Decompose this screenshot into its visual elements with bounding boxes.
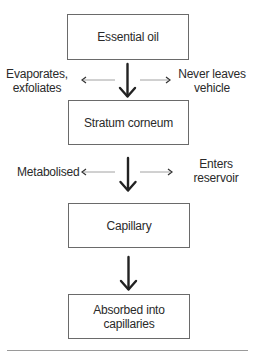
side-arrowhead-right-1-icon (166, 77, 170, 83)
node-label: Essential oil (97, 30, 158, 44)
side-label-line: vehicle (176, 81, 248, 95)
side-label-line: Evaporates, (6, 67, 68, 81)
main-arrow-1-icon (120, 64, 135, 97)
side-label-line: Metabolised (17, 165, 79, 179)
side-label-evaporates: Evaporates, exfoliates (6, 67, 68, 95)
side-label-line: Never leaves (176, 67, 248, 81)
main-arrow-3-icon (121, 257, 136, 290)
node-label: Capillary (107, 219, 152, 233)
side-label-line: reservoir (188, 171, 244, 185)
side-arrowhead-right-2-icon (168, 169, 172, 175)
side-arrowhead-left-1-icon (82, 77, 86, 83)
side-label-never-leaves: Never leaves vehicle (176, 67, 248, 95)
side-label-line: Enters (188, 157, 244, 171)
side-label-line: exfoliates (6, 81, 68, 95)
node-capillary: Capillary (68, 203, 190, 248)
side-arrowhead-left-2-icon (82, 169, 86, 175)
node-label: Stratum corneum (84, 116, 173, 130)
node-absorbed: Absorbed into capillaries (68, 294, 190, 339)
node-stratum-corneum: Stratum corneum (68, 100, 189, 145)
side-label-metabolised: Metabolised (17, 165, 79, 179)
main-arrow-2-icon (121, 158, 136, 191)
bottom-divider (7, 350, 248, 351)
node-label: Absorbed into capillaries (84, 303, 174, 331)
side-label-enters-reservoir: Enters reservoir (188, 157, 244, 185)
node-essential-oil: Essential oil (67, 14, 189, 60)
